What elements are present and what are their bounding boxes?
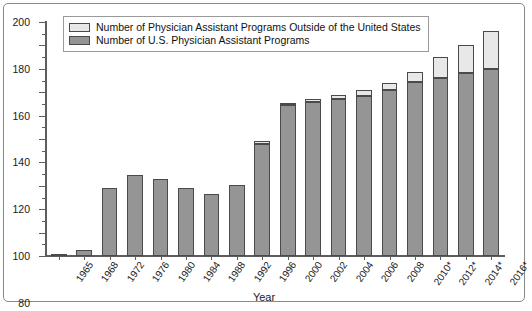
- bar-segment-outside-us: [407, 72, 423, 81]
- bar-2008: [382, 83, 398, 256]
- bar-segment-us: [102, 188, 118, 256]
- x-axis-tick: [440, 256, 441, 260]
- plot-area: 020406080100120140160180200: [46, 22, 504, 256]
- bar-segment-outside-us: [382, 83, 398, 90]
- y-axis-tick: 160: [39, 69, 46, 70]
- x-axis-tick: [491, 256, 492, 260]
- bar-1984: [178, 188, 194, 256]
- x-axis-tick-label: 1984: [201, 260, 222, 284]
- bar-segment-us: [153, 179, 169, 256]
- x-axis-tick-label: 2002: [329, 260, 350, 284]
- chart-frame: Number of Physician Assistant Programs O…: [3, 3, 525, 302]
- bar-segment-us: [254, 144, 270, 256]
- y-axis-minor-tick: [42, 244, 46, 245]
- legend-label-outside-us: Number of Physician Assistant Programs O…: [96, 22, 421, 33]
- legend-label-us: Number of U.S. Physician Assistant Progr…: [96, 35, 310, 46]
- bar-segment-outside-us: [254, 141, 270, 143]
- bar-segment-outside-us: [356, 90, 372, 96]
- bar-1992: [229, 185, 245, 256]
- y-axis-tick-label: 200: [12, 17, 30, 28]
- x-axis-tick: [466, 256, 467, 260]
- bar-segment-outside-us: [433, 57, 449, 78]
- y-axis-tick: 20: [39, 233, 46, 234]
- y-axis-minor-tick: [42, 104, 46, 105]
- y-axis-minor-tick: [42, 221, 46, 222]
- x-axis-tick-label: 2010*: [432, 260, 455, 287]
- bar-2016: [483, 31, 499, 256]
- legend-swatch-us: [69, 36, 90, 45]
- y-axis-minor-tick: [42, 34, 46, 35]
- y-axis-minor-tick: [42, 127, 46, 128]
- x-axis-tick-label: 1992: [252, 260, 273, 284]
- y-axis-minor-tick: [42, 198, 46, 199]
- bar-segment-us: [483, 69, 499, 256]
- bar-1996: [254, 141, 270, 256]
- x-axis-tick-label: 1988: [227, 260, 248, 284]
- x-axis-tick-label: 2016*: [508, 260, 531, 287]
- bar-segment-us: [305, 102, 321, 256]
- y-axis-minor-tick: [42, 151, 46, 152]
- x-axis-tick-label: 2000: [303, 260, 324, 284]
- bar-segment-us: [204, 194, 220, 256]
- bar-2006: [356, 90, 372, 256]
- x-axis-tick-label: 2004: [354, 260, 375, 284]
- bar-1972: [102, 188, 118, 256]
- y-axis-tick-label: 160: [12, 110, 30, 121]
- chart-legend: Number of Physician Assistant Programs O…: [63, 16, 429, 52]
- y-axis-tick: 180: [39, 45, 46, 46]
- x-axis-tick: [59, 256, 60, 260]
- legend-item-outside-us: Number of Physician Assistant Programs O…: [69, 21, 421, 34]
- x-axis-tick-label: 2014*: [483, 260, 506, 287]
- y-axis-tick-label: 120: [12, 204, 30, 215]
- bar-segment-outside-us: [483, 31, 499, 68]
- legend-swatch-outside-us: [69, 23, 90, 32]
- bar-segment-us: [382, 90, 398, 256]
- y-axis-minor-tick: [42, 57, 46, 58]
- bar-segment-us: [178, 188, 194, 256]
- x-axis-tick-label: 1972: [125, 260, 146, 284]
- y-axis-tick: 200: [39, 22, 46, 23]
- bar-segment-outside-us: [305, 99, 321, 101]
- y-axis-tick-label: 140: [12, 157, 30, 168]
- y-axis-tick: 60: [39, 186, 46, 187]
- bar-segment-us: [433, 78, 449, 256]
- bar-segment-outside-us: [280, 103, 296, 105]
- y-axis-tick: 80: [39, 162, 46, 163]
- bar-segment-us: [331, 99, 347, 256]
- y-axis-minor-tick: [42, 174, 46, 175]
- bar-segment-us: [127, 175, 143, 256]
- bar-2004: [331, 95, 347, 256]
- y-axis-tick: 120: [39, 116, 46, 117]
- x-axis-tick-label: 1980: [176, 260, 197, 284]
- bar-1988: [204, 194, 220, 256]
- bar-segment-outside-us: [458, 45, 474, 73]
- x-axis-tick-label: 2008: [405, 260, 426, 284]
- bar-segment-us: [280, 105, 296, 256]
- bar-segment-us: [356, 96, 372, 256]
- bar-segment-outside-us: [331, 95, 347, 100]
- x-axis-tick-label: 1976: [151, 260, 172, 284]
- bar-1976: [127, 175, 143, 256]
- x-axis-tick-label: 1996: [278, 260, 299, 284]
- x-axis-tick-label: 1968: [100, 260, 121, 284]
- x-axis-tick-label: 1965: [74, 260, 95, 284]
- bar-segment-us: [458, 73, 474, 256]
- y-axis-tick: 140: [39, 92, 46, 93]
- y-axis-tick: 0: [39, 256, 46, 257]
- y-axis-tick-label: 100: [12, 251, 30, 262]
- y-axis-tick-label: 180: [12, 64, 30, 75]
- bar-2010: [407, 72, 423, 256]
- x-axis-tick-label: 2006: [380, 260, 401, 284]
- bar-segment-us: [407, 82, 423, 256]
- bar-2012: [433, 57, 449, 256]
- y-axis-tick: 100: [39, 139, 46, 140]
- x-axis-tick-label: 2012*: [458, 260, 481, 287]
- legend-item-us: Number of U.S. Physician Assistant Progr…: [69, 34, 421, 47]
- x-axis-title: Year: [4, 291, 524, 303]
- bar-2002: [305, 99, 321, 256]
- bar-2000: [280, 103, 296, 256]
- bar-2014: [458, 45, 474, 256]
- y-axis-minor-tick: [42, 81, 46, 82]
- bar-1980: [153, 179, 169, 256]
- bar-segment-us: [229, 185, 245, 256]
